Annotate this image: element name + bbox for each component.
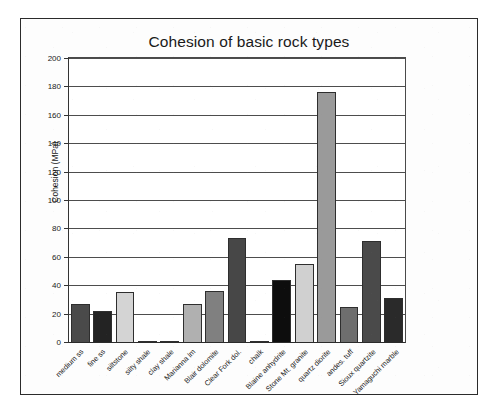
bar[interactable]	[384, 298, 403, 342]
x-label-slot: quartz diorite	[316, 345, 339, 415]
y-tick-label-180: 180	[48, 82, 61, 91]
bar-slot	[248, 58, 270, 342]
figure-frame: Cohesion of basic rock types Cohesion (M…	[20, 18, 478, 395]
bar[interactable]	[362, 241, 381, 342]
bar[interactable]	[272, 280, 291, 342]
bar-slot	[360, 58, 382, 342]
bar-slot	[315, 58, 337, 342]
y-tick-label-40: 40	[52, 281, 61, 290]
gridline-0	[69, 342, 405, 343]
bars-layer	[69, 58, 405, 342]
y-tick-label-80: 80	[52, 224, 61, 233]
bar-slot	[136, 58, 158, 342]
bar[interactable]	[116, 292, 135, 342]
bar[interactable]	[340, 307, 359, 343]
y-tick-label-200: 200	[48, 54, 61, 63]
bar[interactable]	[317, 92, 336, 342]
y-tick-label-60: 60	[52, 252, 61, 261]
bar-slot	[69, 58, 91, 342]
bar[interactable]	[71, 304, 90, 342]
x-axis-tick-label: chalk	[247, 348, 264, 365]
bar[interactable]	[295, 264, 314, 342]
bar-slot	[226, 58, 248, 342]
bar[interactable]	[205, 291, 224, 342]
y-tick-label-140: 140	[48, 139, 61, 148]
bar-slot	[181, 58, 203, 342]
x-label-slot: fine ss	[91, 345, 114, 415]
bar-slot	[159, 58, 181, 342]
bar-slot	[383, 58, 405, 342]
chart-title: Cohesion of basic rock types	[21, 33, 477, 51]
x-axis-tick-label: medium ss	[54, 348, 85, 379]
bar-slot	[203, 58, 225, 342]
bar[interactable]	[138, 341, 157, 342]
bar[interactable]	[93, 311, 112, 342]
bar[interactable]	[160, 341, 179, 342]
bar[interactable]	[183, 304, 202, 342]
y-tick-0	[64, 342, 69, 343]
bar-slot	[114, 58, 136, 342]
bar-slot	[271, 58, 293, 342]
bar-slot	[293, 58, 315, 342]
y-tick-label-0: 0	[57, 338, 61, 347]
x-label-slot: Clear Fork dol.	[226, 345, 249, 415]
x-label-slot: silty shale	[136, 345, 159, 415]
x-label-slot: Yamaguchi marble	[383, 345, 406, 415]
x-axis-labels: medium ssfine sssiltstonesilty shaleclay…	[68, 345, 406, 415]
bar[interactable]	[228, 238, 247, 342]
y-tick-label-120: 120	[48, 167, 61, 176]
y-tick-label-100: 100	[48, 196, 61, 205]
plot-area: 200180160140120100806040200	[68, 57, 406, 343]
bar-slot	[338, 58, 360, 342]
x-label-slot: medium ss	[68, 345, 91, 415]
bar[interactable]	[250, 341, 269, 342]
y-tick-label-160: 160	[48, 110, 61, 119]
bar-slot	[91, 58, 113, 342]
y-tick-label-20: 20	[52, 309, 61, 318]
x-label-slot: siltstone	[113, 345, 136, 415]
